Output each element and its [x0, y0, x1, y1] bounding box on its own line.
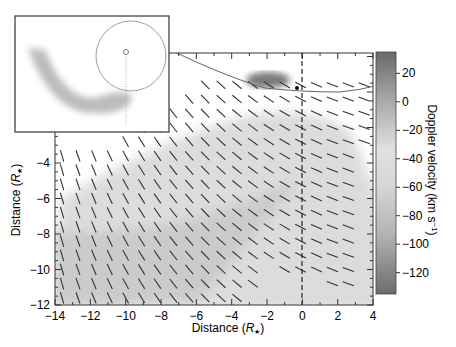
colorbar: [376, 52, 396, 294]
x-axis-label: Distance (R★): [192, 321, 265, 335]
doppler-velocity-figure: −14−12−10−8−6−4−2024 −12−10−8−6−4 Distan…: [0, 0, 456, 347]
y-tick-label: −12: [30, 298, 51, 312]
x-tick-label: 2: [334, 309, 341, 323]
inset-schematic: [15, 16, 169, 132]
colorbar-tick-label: 0: [402, 95, 409, 109]
x-tick-label: 4: [370, 309, 377, 323]
y-tick-label: −8: [36, 227, 50, 241]
y-tick-label: −6: [36, 192, 50, 206]
colorbar-tick-label: −100: [402, 237, 429, 251]
x-tick-label: 0: [299, 309, 306, 323]
colorbar-tick-label: −120: [402, 266, 429, 280]
star-marker: [295, 86, 299, 90]
dark-emission-spot: [246, 72, 290, 88]
y-tick-label: −10: [30, 263, 51, 277]
x-tick-label: −8: [154, 309, 168, 323]
colorbar-tick-label: −60: [402, 180, 423, 194]
colorbar-tick-label: −80: [402, 209, 423, 223]
colorbar-label: Doppler velocity (km s−1): [425, 104, 439, 235]
colorbar-tick-label: −40: [402, 152, 423, 166]
y-axis-label: Distance (R★): [9, 164, 23, 237]
y-tick-label: −4: [36, 156, 50, 170]
colorbar-tick-label: −20: [402, 123, 423, 137]
colorbar-ticks: 200−20−40−60−80−100−120: [396, 66, 429, 279]
colorbar-tick-label: 20: [402, 66, 416, 80]
x-tick-label: −10: [116, 309, 137, 323]
x-tick-label: −12: [80, 309, 101, 323]
